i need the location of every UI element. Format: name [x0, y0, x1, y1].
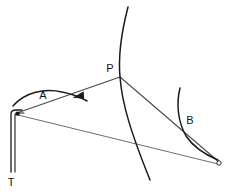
figure-canvas: P A B T: [0, 0, 235, 192]
label-point-p: P: [106, 62, 113, 74]
label-curve-a: A: [39, 89, 47, 101]
curve-b-path: [178, 88, 218, 160]
diagram-svg: P A B T: [0, 0, 235, 192]
line-p-to-right-endpoint: [120, 77, 219, 162]
line-t-to-p: [17, 77, 120, 113]
main-curve-through-p: [119, 7, 150, 180]
pole-inner-wall: [15, 113, 24, 172]
label-curve-b: B: [186, 114, 193, 126]
corner-square-marker: [16, 112, 19, 115]
right-endpoint-circle-marker: [217, 161, 221, 165]
label-point-t: T: [8, 176, 15, 188]
pole-outer-wall: [11, 110, 22, 172]
